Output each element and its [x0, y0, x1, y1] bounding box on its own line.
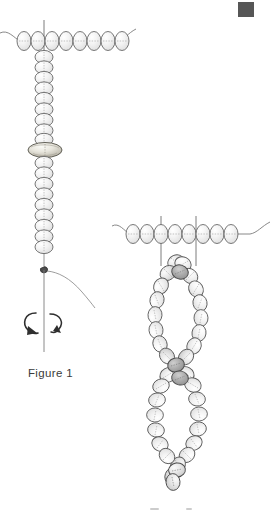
bead	[59, 32, 73, 51]
illustration-canvas: Figure 1	[0, 0, 278, 516]
bead	[140, 225, 154, 244]
figure1-vertical-beads-lower	[35, 156, 53, 253]
beading-diagram-svg	[0, 0, 278, 516]
figure-1-group	[0, 20, 136, 352]
bead	[146, 408, 163, 423]
bead	[190, 407, 207, 422]
figure1-vertical-beads-upper	[35, 50, 53, 145]
rotation-arrow-icon	[25, 313, 62, 335]
scan-edge-marker	[238, 2, 254, 17]
bead	[87, 32, 101, 51]
bead	[147, 306, 162, 324]
bead	[188, 391, 207, 407]
bead	[194, 309, 209, 326]
bead	[210, 225, 224, 244]
bead	[148, 392, 167, 408]
figure1-horizontal-bead-row	[17, 32, 129, 51]
bead	[146, 421, 165, 438]
bead	[31, 32, 45, 51]
bead	[154, 225, 168, 244]
bead	[188, 420, 207, 437]
figure2-horizontal-bead-row	[126, 225, 238, 244]
bead	[73, 32, 87, 51]
thread-tail	[47, 271, 95, 308]
bead	[224, 225, 238, 244]
bead	[101, 32, 115, 51]
bead	[182, 225, 196, 244]
figure-1-caption: Figure 1	[28, 368, 73, 380]
bottom-page-smudge	[150, 505, 212, 511]
smudge-mark	[186, 508, 192, 510]
bead	[35, 240, 53, 253]
bead	[196, 225, 210, 244]
spacer-bead	[28, 143, 62, 158]
bead	[17, 32, 31, 51]
smudge-mark	[150, 508, 159, 510]
bead	[126, 225, 140, 244]
bead	[45, 32, 59, 51]
bead	[168, 225, 182, 244]
bead	[115, 32, 129, 51]
figure-2-group	[112, 216, 270, 491]
